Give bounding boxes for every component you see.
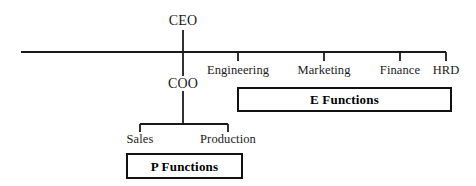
group-box-label-p-functions: P Functions — [151, 160, 219, 173]
node-label-production: Production — [200, 133, 256, 146]
node-label-coo: COO — [168, 77, 198, 91]
node-label-finance: Finance — [380, 64, 420, 77]
node-label-ceo: CEO — [169, 14, 197, 28]
node-label-marketing: Marketing — [298, 64, 351, 77]
org-chart-diagram: CEO COO Engineering Marketing Finance HR… — [0, 0, 476, 186]
node-label-engineering: Engineering — [207, 64, 269, 77]
node-label-hrd: HRD — [433, 64, 460, 77]
node-label-sales: Sales — [127, 133, 154, 146]
group-box-e-functions: E Functions — [237, 87, 452, 112]
group-box-label-e-functions: E Functions — [310, 93, 379, 106]
group-box-p-functions: P Functions — [126, 153, 243, 179]
